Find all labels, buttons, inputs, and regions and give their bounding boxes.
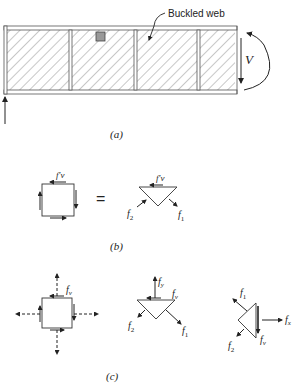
tri2-f2-label: f2: [228, 340, 235, 354]
tri2-f1-label: f1: [240, 287, 247, 301]
web-panel-1: [7, 30, 69, 90]
square-element-c: [42, 298, 72, 328]
f2-label-b: f2: [127, 208, 134, 222]
stiffener-3: [197, 30, 200, 90]
panel-a-girder: V Buckled web (a): [4, 8, 270, 141]
tri1-fv-label: fv: [172, 288, 179, 301]
tri2-fx-label: fx: [285, 314, 292, 327]
buckled-web-callout: Buckled web: [168, 8, 225, 19]
top-flange: [4, 26, 237, 30]
tri1-f1-label: f1: [182, 325, 189, 339]
tri2-fv-label: fv: [260, 334, 267, 347]
bottom-flange: [4, 90, 237, 94]
f1-label-b: f1: [178, 209, 185, 223]
triangle-element-c1: [137, 300, 175, 319]
stress-element-marker: [96, 32, 105, 41]
triangle-fv-label: f′v: [156, 173, 164, 183]
buckled-web-diagram: V Buckled web (a) f′v = f′v f2 f1 (b): [0, 0, 302, 388]
caption-c: (c): [106, 370, 119, 383]
web-panel-4: [200, 30, 235, 90]
stiffener-1: [69, 30, 72, 90]
square-fv-label: f′v: [56, 170, 64, 180]
shear-label: V: [245, 52, 255, 67]
tri1-f2-label: f2: [128, 320, 135, 334]
tri1-fy-label: fy: [158, 276, 165, 289]
panel-c-stress-states: fv fy fv f2 f1 f1 fx fv f2 (c): [16, 274, 292, 383]
equals-sign: =: [96, 190, 105, 207]
triangle-element-b: [139, 187, 177, 206]
caption-b: (b): [110, 240, 123, 253]
caption-a: (a): [110, 128, 123, 141]
square-fv-label-c: fv: [66, 284, 73, 297]
square-element-b: [42, 184, 74, 216]
stiffener-2: [134, 30, 137, 90]
panel-b-stress-element: f′v = f′v f2 f1 (b): [40, 170, 185, 253]
end-stiffener: [4, 26, 7, 94]
web-panel-3: [137, 30, 197, 90]
